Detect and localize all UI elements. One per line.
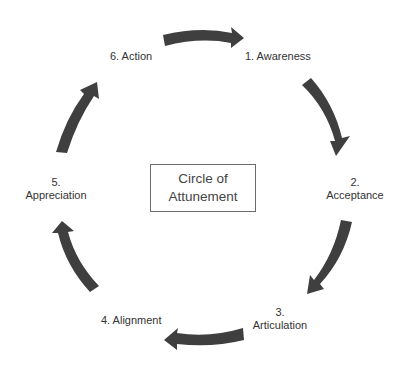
step-1-text: 1. Awareness bbox=[245, 50, 311, 62]
circle-of-attunement-diagram: 1. Awareness 2. Acceptance 3. Articulati… bbox=[0, 0, 399, 372]
arrow-icon-acceptance-to-articulation bbox=[307, 220, 352, 294]
step-3-name: Articulation bbox=[240, 319, 320, 332]
step-5-name: Appreciation bbox=[20, 189, 92, 202]
step-label-action: 6. Action bbox=[110, 50, 152, 63]
center-title-box: Circle of Attunement bbox=[150, 164, 256, 212]
arrow-icon-awareness-to-acceptance bbox=[302, 78, 350, 156]
arrow-icon-appreciation-to-action bbox=[56, 82, 99, 153]
step-label-awareness: 1. Awareness bbox=[245, 50, 311, 63]
step-label-alignment: 4. Alignment bbox=[101, 314, 162, 327]
step-label-acceptance: 2. Acceptance bbox=[320, 176, 390, 202]
step-2-number: 2. bbox=[320, 176, 390, 189]
step-5-number: 5. bbox=[20, 176, 92, 189]
center-title-line-2: Attunement bbox=[168, 188, 237, 206]
step-label-appreciation: 5. Appreciation bbox=[20, 176, 92, 202]
step-2-name: Acceptance bbox=[320, 189, 390, 202]
step-3-number: 3. bbox=[240, 306, 320, 319]
step-4-text: 4. Alignment bbox=[101, 314, 162, 326]
center-title-line-1: Circle of bbox=[178, 170, 228, 188]
arrow-icon-action-to-awareness bbox=[163, 27, 244, 48]
step-6-text: 6. Action bbox=[110, 50, 152, 62]
arrow-icon-articulation-to-alignment bbox=[164, 328, 244, 350]
arrow-icon-alignment-to-appreciation bbox=[52, 221, 99, 292]
step-label-articulation: 3. Articulation bbox=[240, 306, 320, 332]
